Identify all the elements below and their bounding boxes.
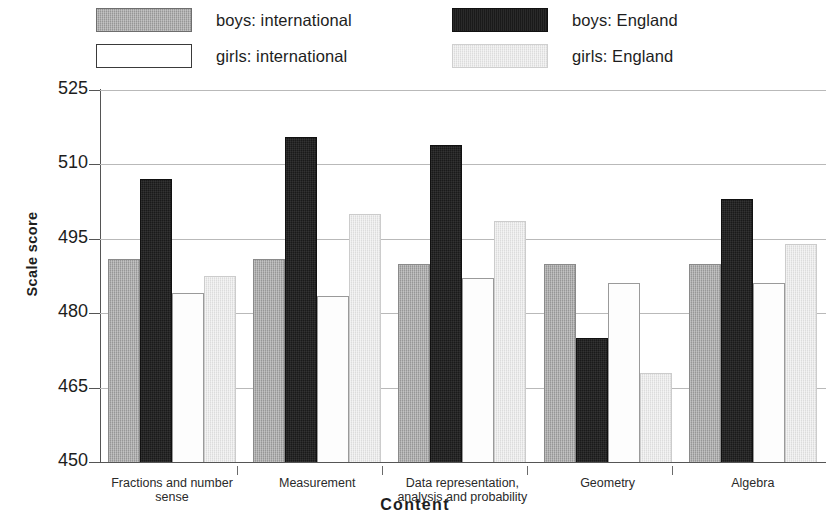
bar[interactable] <box>640 373 672 462</box>
bar[interactable] <box>430 145 462 462</box>
bar[interactable] <box>721 199 753 462</box>
bar-group <box>253 90 381 462</box>
category-separator-tick <box>237 466 238 475</box>
bar[interactable] <box>544 264 576 462</box>
bar-group <box>108 90 236 462</box>
bar[interactable] <box>576 338 608 462</box>
category-label-line: Fractions and number <box>92 476 252 490</box>
y-axis-tick-label: 510 <box>42 152 88 173</box>
category-label-line: Measurement <box>237 476 397 490</box>
bar[interactable] <box>398 264 430 462</box>
bar-group <box>689 90 817 462</box>
bar[interactable] <box>172 293 204 462</box>
bar[interactable] <box>204 276 236 462</box>
bar[interactable] <box>253 259 285 462</box>
y-axis-tick-label: 465 <box>42 376 88 397</box>
category-separator-tick <box>672 466 673 475</box>
category-separator-tick <box>382 466 383 475</box>
x-axis-line <box>100 462 826 463</box>
bar[interactable] <box>494 221 526 462</box>
bar-group <box>398 90 526 462</box>
bar[interactable] <box>608 283 640 462</box>
bar-group <box>544 90 672 462</box>
category-label-line: Geometry <box>528 476 688 490</box>
x-axis-category-label: Algebra <box>673 476 830 490</box>
x-axis-category-label: Measurement <box>237 476 397 490</box>
grouped-bar-chart: Scale score 450465480495510525 Fractions… <box>0 0 830 517</box>
y-axis-tick-label: 495 <box>42 227 88 248</box>
y-axis-tick-label: 480 <box>42 301 88 322</box>
category-label-line: Data representation, <box>382 476 542 490</box>
category-label-line: Algebra <box>673 476 830 490</box>
bar[interactable] <box>140 179 172 462</box>
category-separator-tick <box>527 466 528 475</box>
bar[interactable] <box>785 244 817 462</box>
bar[interactable] <box>462 278 494 462</box>
y-axis-tick-labels: 450465480495510525 <box>36 0 88 517</box>
plot-area <box>100 90 826 462</box>
y-axis-tick-label: 525 <box>42 78 88 99</box>
x-axis-title: Content <box>0 496 830 514</box>
bar[interactable] <box>285 137 317 462</box>
bar[interactable] <box>349 214 381 462</box>
x-axis-category-label: Geometry <box>528 476 688 490</box>
bar[interactable] <box>753 283 785 462</box>
bar[interactable] <box>108 259 140 462</box>
bar[interactable] <box>689 264 721 462</box>
bar[interactable] <box>317 296 349 462</box>
